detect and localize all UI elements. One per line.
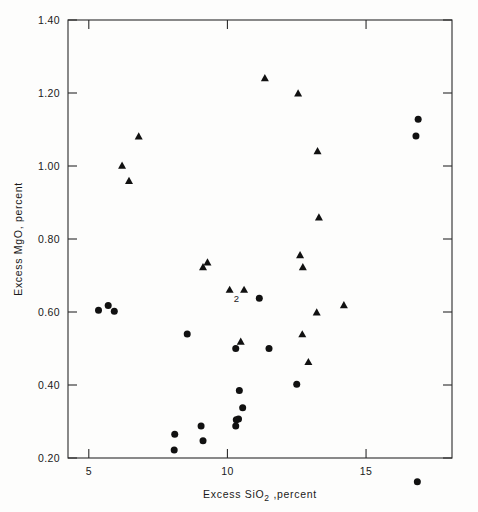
x-axis-title: Excess SiO2 ,percent	[203, 488, 317, 503]
data-point-circle	[414, 478, 421, 485]
data-point-circle	[171, 431, 178, 438]
y-tick-label: 1.40	[38, 14, 60, 26]
data-point-circle	[171, 446, 178, 453]
data-point-circle	[198, 422, 205, 429]
data-point-circle	[111, 308, 118, 315]
data-point-circle	[200, 437, 207, 444]
data-point-circle	[232, 422, 239, 429]
data-point-circle	[232, 345, 239, 352]
plot-frame	[68, 20, 452, 458]
y-axis-title: Excess MgO, percent	[12, 182, 24, 296]
data-point-circle	[184, 330, 191, 337]
y-tick-label: 0.80	[38, 233, 60, 245]
overlap-count-label: 2	[234, 293, 239, 304]
annotation-layer: 2	[234, 293, 239, 304]
data-point-circle	[236, 387, 243, 394]
figure-canvas: 0.200.400.600.801.001.201.40 51015 2 Exc…	[0, 0, 478, 512]
series-circles	[95, 116, 422, 485]
data-point-triangle	[294, 89, 302, 96]
data-point-circle	[415, 116, 422, 123]
data-point-triangle	[314, 147, 322, 154]
y-axis-ticks: 0.200.400.600.801.001.201.40	[38, 14, 452, 464]
x-axis-ticks: 51015	[86, 20, 373, 477]
y-tick-label: 0.20	[38, 452, 60, 464]
x-tick-label: 10	[221, 465, 233, 477]
data-point-triangle	[296, 251, 304, 258]
scatter-plot: 0.200.400.600.801.001.201.40 51015 2 Exc…	[0, 0, 478, 512]
data-point-triangle	[315, 213, 323, 220]
data-series-layer	[95, 74, 422, 485]
data-point-circle	[235, 415, 242, 422]
data-point-circle	[412, 133, 419, 140]
data-point-circle	[95, 307, 102, 314]
data-point-triangle	[203, 258, 211, 265]
data-point-triangle	[313, 308, 321, 315]
data-point-triangle	[304, 358, 312, 365]
x-tick-label: 5	[86, 465, 92, 477]
data-point-triangle	[226, 286, 234, 293]
y-tick-label: 0.40	[38, 379, 60, 391]
data-point-circle	[266, 345, 273, 352]
data-point-triangle	[240, 286, 248, 293]
data-point-triangle	[261, 74, 269, 81]
data-point-triangle	[135, 132, 143, 139]
y-tick-label: 0.60	[38, 306, 60, 318]
data-point-triangle	[118, 162, 126, 169]
data-point-triangle	[298, 330, 306, 337]
data-point-triangle	[299, 263, 307, 270]
data-point-triangle	[340, 301, 348, 308]
data-point-circle	[293, 381, 300, 388]
data-point-triangle	[125, 177, 133, 184]
x-tick-label: 15	[360, 465, 372, 477]
y-tick-label: 1.00	[38, 160, 60, 172]
data-point-circle	[239, 404, 246, 411]
data-point-triangle	[237, 337, 245, 344]
data-point-circle	[105, 302, 112, 309]
y-tick-label: 1.20	[38, 87, 60, 99]
data-point-circle	[256, 295, 263, 302]
series-triangles	[118, 74, 348, 365]
